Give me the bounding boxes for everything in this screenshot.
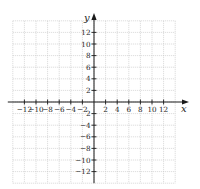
x-tick-label: −6 — [54, 105, 65, 114]
x-tick-label: 12 — [159, 105, 168, 114]
y-axis-arrow-icon — [91, 13, 96, 20]
coordinate-plane: −12−10−8−6−4−224681012 121086422−4−6−8−1… — [0, 0, 200, 189]
x-tick-label: 4 — [115, 105, 120, 114]
y-tick-label: 4 — [86, 74, 91, 83]
y-tick-label: −10 — [75, 156, 91, 165]
y-tick-label: 6 — [86, 63, 91, 72]
y-tick-label: 8 — [86, 51, 91, 60]
axes — [8, 13, 189, 183]
y-tick-label: −8 — [80, 144, 91, 153]
x-tick-label: 10 — [147, 105, 157, 114]
x-tick-label: −4 — [65, 105, 76, 114]
x-axis-label: x — [181, 103, 187, 114]
y-tick-label: −12 — [75, 167, 90, 176]
x-tick-label: −8 — [42, 105, 53, 114]
y-tick-label: 2 — [86, 86, 91, 95]
y-tick-label: 12 — [81, 28, 90, 37]
x-tick-label: 6 — [127, 105, 132, 114]
y-tick-label: −4 — [80, 121, 91, 130]
x-tick-label: 8 — [138, 105, 143, 114]
y-axis-label: y — [83, 12, 90, 23]
x-tick-label: 2 — [103, 105, 108, 114]
y-tick-label: −6 — [80, 132, 91, 141]
y-tick-label: 2 — [86, 109, 91, 118]
y-tick-label: 10 — [81, 40, 91, 49]
